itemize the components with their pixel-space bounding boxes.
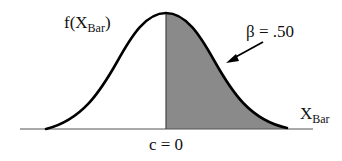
critical-value-label: c = 0 (149, 135, 183, 154)
beta-label: β = .50 (246, 22, 294, 41)
normal-curve-diagram: f(XBar) β = .50 XBar c = 0 (0, 0, 342, 161)
y-axis-label: f(XBar) (64, 13, 111, 35)
x-axis-label: XBar (300, 104, 330, 126)
arrow-icon (226, 42, 263, 63)
